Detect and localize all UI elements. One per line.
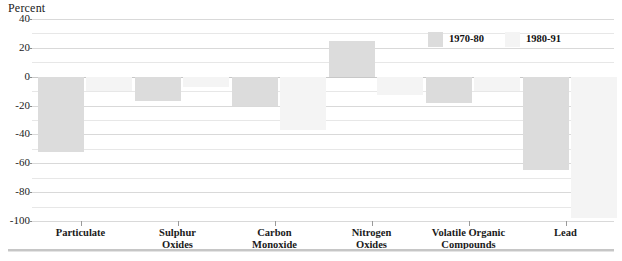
x-axis-category-label: NitrogenOxides — [323, 227, 420, 250]
bar-series-2[interactable] — [571, 77, 617, 218]
plot-area: 40200-20-40-60-80-100 — [32, 19, 614, 221]
bar-series-2[interactable] — [377, 77, 423, 96]
bar-group — [129, 19, 226, 221]
bar-series-2[interactable] — [280, 77, 326, 130]
bottom-rule-shadow — [8, 251, 614, 252]
x-axis-tick-mark — [178, 221, 179, 226]
x-axis-label-line: Sulphur — [129, 227, 226, 239]
x-axis-category-label: SulphurOxides — [129, 227, 226, 250]
legend-swatch — [505, 32, 520, 47]
x-axis-tick-mark — [372, 221, 373, 226]
y-axis-tick-label: -80 — [2, 185, 30, 197]
x-axis-tick-mark — [275, 221, 276, 226]
x-axis-category-label: Lead — [517, 227, 614, 239]
legend-label: 1980-91 — [526, 33, 561, 44]
x-axis-category-label: CarbonMonoxide — [226, 227, 323, 250]
bar-series-1[interactable] — [329, 41, 375, 77]
legend-swatch — [428, 32, 443, 47]
bar-chart: Percent 40200-20-40-60-80-100 Particulat… — [0, 0, 622, 261]
bar-series-2[interactable] — [86, 77, 132, 91]
bar-series-1[interactable] — [523, 77, 569, 171]
bar-groups — [32, 19, 614, 221]
x-axis-label-line: Carbon — [226, 227, 323, 239]
y-axis-tick-label: -100 — [2, 214, 30, 226]
bar-series-1[interactable] — [38, 77, 84, 152]
x-axis-label-line: Particulate — [32, 227, 129, 239]
x-axis-category-label: Volatile OrganicCompounds — [420, 227, 517, 250]
bar-series-2[interactable] — [183, 77, 229, 87]
bar-series-2[interactable] — [474, 77, 520, 91]
bar-group — [323, 19, 420, 221]
y-axis-tick-label: -60 — [2, 156, 30, 168]
x-axis-label-line: Nitrogen — [323, 227, 420, 239]
x-axis-category-label: Particulate — [32, 227, 129, 239]
x-axis-category-labels: ParticulateSulphurOxidesCarbonMonoxideNi… — [32, 227, 614, 257]
bar-group — [517, 19, 614, 221]
y-axis-tick-label: 0 — [2, 69, 30, 81]
x-axis-tick-mark — [469, 221, 470, 226]
x-axis-label-line: Lead — [517, 227, 614, 239]
y-axis-tick-label: -20 — [2, 98, 30, 110]
x-axis-label-line: Volatile Organic — [420, 227, 517, 239]
y-axis-tick-label: -40 — [2, 127, 30, 139]
bar-group — [226, 19, 323, 221]
bar-series-1[interactable] — [426, 77, 472, 103]
legend-label: 1970-80 — [449, 33, 484, 44]
bar-series-1[interactable] — [232, 77, 278, 106]
x-axis-tick-mark — [566, 221, 567, 226]
bar-series-1[interactable] — [135, 77, 181, 102]
bar-group — [32, 19, 129, 221]
y-axis-tick-label: 40 — [2, 12, 30, 24]
x-axis-tick-mark — [81, 221, 82, 226]
y-axis-tick-label: 20 — [2, 40, 30, 52]
bar-group — [420, 19, 517, 221]
